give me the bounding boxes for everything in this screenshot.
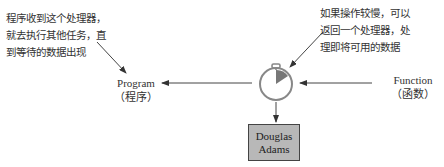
result-line-2: Adams bbox=[258, 143, 289, 156]
diagram-connectors bbox=[0, 0, 444, 167]
result-box: Douglas Adams bbox=[248, 124, 300, 161]
stopwatch-icon bbox=[260, 64, 292, 100]
result-line-1: Douglas bbox=[256, 130, 293, 143]
left-note-arrow bbox=[97, 42, 126, 73]
right-note-arrow bbox=[290, 32, 323, 67]
